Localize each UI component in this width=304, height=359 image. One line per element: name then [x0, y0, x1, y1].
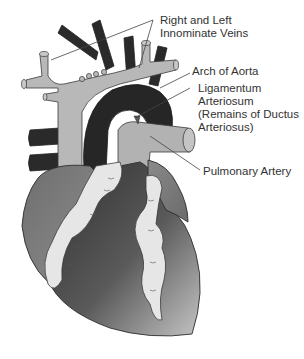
label-line: Ligamentum [198, 82, 299, 95]
label-innominate-veins: Right and Left Innominate Veins [160, 14, 248, 40]
label-line: Right and Left [160, 14, 248, 27]
label-line: Arch of Aorta [192, 65, 258, 78]
heart-diagram [0, 0, 304, 359]
label-pulmonary-artery: Pulmonary Artery [203, 165, 291, 178]
label-line: (Remains of Ductus [198, 108, 299, 121]
label-line: Pulmonary Artery [203, 165, 291, 178]
label-line: Arteriosus) [198, 121, 299, 134]
pulmonary-veins-left [29, 128, 61, 171]
label-arch-of-aorta: Arch of Aorta [192, 65, 258, 78]
label-line: Innominate Veins [160, 27, 248, 40]
label-ligamentum-arteriosum: Ligamentum Arteriosum (Remains of Ductus… [198, 82, 299, 134]
label-line: Arteriosum [198, 95, 299, 108]
